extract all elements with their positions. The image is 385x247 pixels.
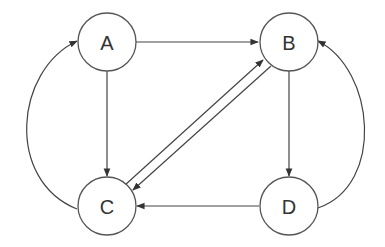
node-b-label: B xyxy=(282,32,295,54)
edge-c-to-b xyxy=(125,60,263,185)
node-b: B xyxy=(260,13,318,71)
node-c: C xyxy=(78,177,136,235)
node-a: A xyxy=(78,13,136,71)
edge-b-to-c xyxy=(133,66,271,190)
edge-c-to-a xyxy=(27,41,77,209)
node-a-label: A xyxy=(100,32,114,54)
graph-canvas: A B C D xyxy=(0,0,385,247)
node-d: D xyxy=(260,177,318,235)
node-d-label: D xyxy=(282,196,296,218)
edge-d-to-b xyxy=(318,41,365,208)
node-c-label: C xyxy=(100,196,114,218)
